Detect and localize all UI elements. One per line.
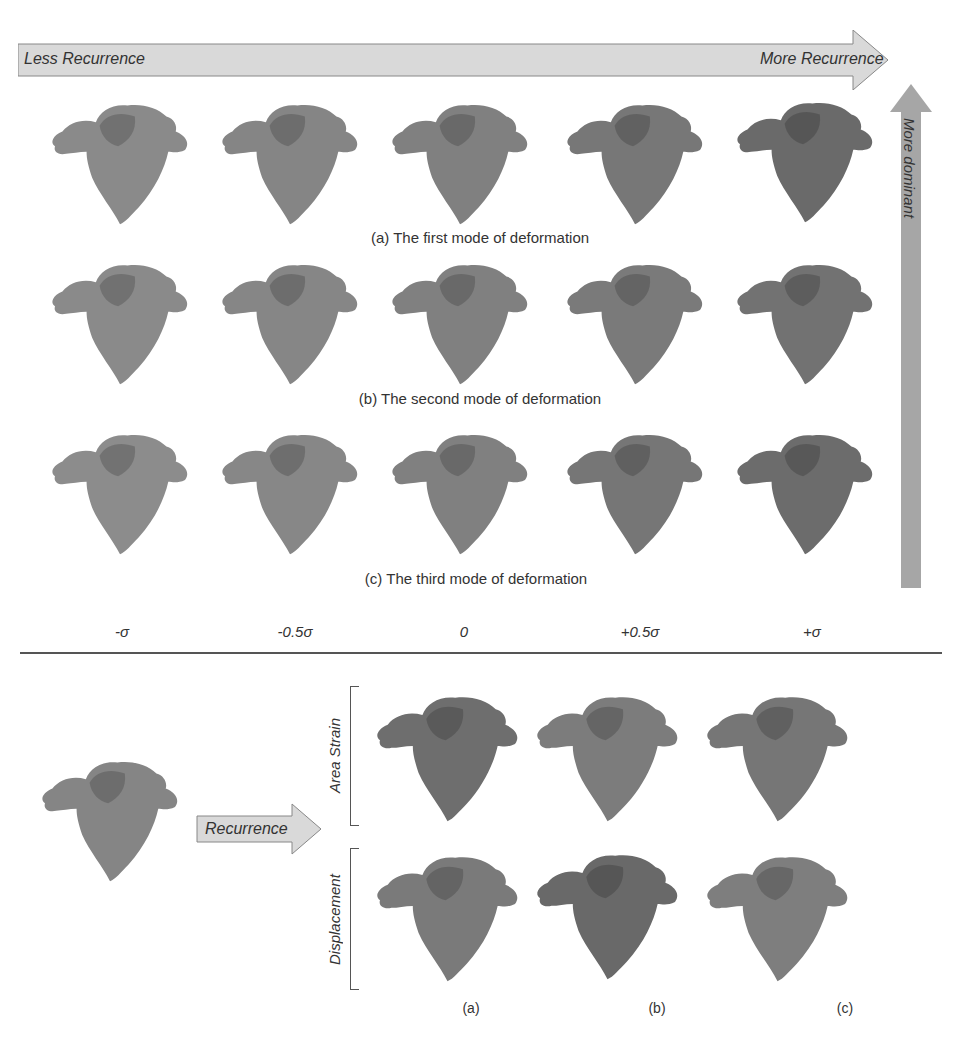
heart-mesh-icon <box>40 428 200 558</box>
displacement-bracket <box>350 848 359 990</box>
sigma-label-minus-1: -σ <box>82 623 162 640</box>
heart-mesh-icon <box>555 98 715 228</box>
area-strain-heart-c-icon <box>700 690 855 825</box>
mode-caption-a: (a) The first mode of deformation <box>280 229 680 246</box>
column-label-b: (b) <box>637 1000 677 1016</box>
area-strain-heart-b-icon <box>530 690 685 825</box>
area-strain-heart-a-icon <box>370 690 525 825</box>
displacement-heart-a-icon <box>370 850 525 985</box>
column-label-c: (c) <box>825 1000 865 1016</box>
area-strain-bracket <box>350 686 359 826</box>
heart-mesh-icon <box>380 98 540 228</box>
column-label-a: (a) <box>451 1000 491 1016</box>
heart-mesh-icon <box>555 258 715 388</box>
heart-mesh-icon <box>725 258 885 388</box>
displacement-label: Displacement <box>326 855 343 985</box>
heart-mesh-icon <box>725 96 885 226</box>
heart-mesh-icon <box>210 98 370 228</box>
displacement-heart-c-icon <box>700 850 855 985</box>
heart-mesh-icon <box>210 258 370 388</box>
more-dominant-label: More dominant <box>901 118 918 218</box>
heart-mesh-icon <box>210 428 370 558</box>
less-to-more-recurrence-arrow <box>18 30 888 90</box>
mode-caption-b: (b) The second mode of deformation <box>280 390 680 407</box>
displacement-heart-b-icon <box>530 848 685 983</box>
more-recurrence-label: More Recurrence <box>760 50 884 68</box>
heart-mesh-icon <box>555 428 715 558</box>
less-recurrence-label: Less Recurrence <box>24 50 145 68</box>
baseline-heart-mesh-icon <box>30 755 190 885</box>
recurrence-label: Recurrence <box>205 820 288 838</box>
sigma-label-plus-half: +0.5σ <box>600 623 680 640</box>
section-divider <box>20 652 942 654</box>
heart-mesh-icon <box>380 258 540 388</box>
heart-mesh-icon <box>725 428 885 558</box>
sigma-label-zero: 0 <box>424 623 504 640</box>
heart-mesh-icon <box>40 258 200 388</box>
heart-mesh-icon <box>380 428 540 558</box>
sigma-label-plus-1: +σ <box>772 623 852 640</box>
mode-caption-c: (c) The third mode of deformation <box>276 570 676 587</box>
heart-mesh-icon <box>40 98 200 228</box>
area-strain-label: Area Strain <box>326 700 343 810</box>
sigma-label-minus-half: -0.5σ <box>255 623 335 640</box>
